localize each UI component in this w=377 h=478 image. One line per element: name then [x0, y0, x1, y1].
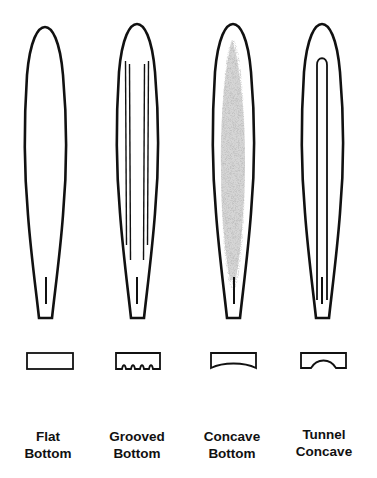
surfboard-diagram: [0, 0, 377, 478]
label-line: Bottom: [3, 445, 93, 462]
groove-line: [148, 61, 149, 245]
board-grooved-bottom: [117, 24, 158, 318]
cross-section-tunnel: [301, 353, 346, 368]
label-line: Concave: [279, 443, 369, 460]
label-tunnel-concave: Tunnel Concave: [279, 426, 369, 460]
label-line: Bottom: [92, 445, 182, 462]
board-concave-bottom: [213, 24, 254, 318]
label-line: Grooved: [92, 428, 182, 445]
cross-section-flat: [27, 353, 73, 369]
groove-line: [126, 61, 127, 245]
label-flat-bottom: Flat Bottom: [3, 428, 93, 462]
cross-section-concave: [211, 353, 256, 368]
cross-section-grooved: [116, 353, 160, 369]
board-outline: [302, 24, 343, 318]
groove-line: [144, 64, 145, 260]
board-outline: [117, 24, 158, 318]
board-flat-bottom: [25, 27, 66, 318]
label-line: Bottom: [187, 445, 277, 462]
board-tunnel-concave: [302, 24, 343, 318]
label-grooved-bottom: Grooved Bottom: [92, 428, 182, 462]
board-outline: [25, 27, 66, 318]
label-line: Flat: [3, 428, 93, 445]
groove-line: [130, 64, 131, 260]
label-concave-bottom: Concave Bottom: [187, 428, 277, 462]
label-line: Concave: [187, 428, 277, 445]
label-line: Tunnel: [279, 426, 369, 443]
tunnel-channel: [317, 58, 327, 300]
